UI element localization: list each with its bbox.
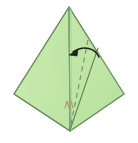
origami-figure (0, 0, 138, 143)
diagram-canvas: Origami fold step diagram Green kite-sha… (0, 0, 138, 143)
vertical-center-crease-highlight (71, 8, 72, 130)
